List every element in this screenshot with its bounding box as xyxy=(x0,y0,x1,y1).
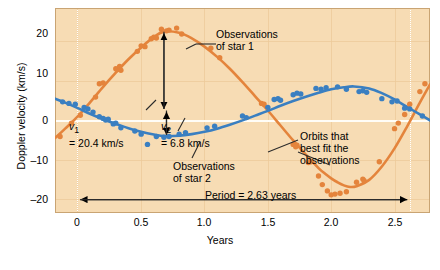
annotation-period: Period = 2.63 years xyxy=(205,189,296,201)
xtick-1_5: 1.5 xyxy=(248,216,288,228)
annotation-observations-star-1: Observations of star 1 xyxy=(216,28,278,52)
v2-subscript: 2 xyxy=(166,125,171,135)
v1-value: = 20.4 km/s xyxy=(69,137,124,149)
annotation-orbits-best-fit: Orbits that best fit the observations xyxy=(300,130,360,167)
xtick-2_5: 2.5 xyxy=(375,216,415,228)
v2-value: = 6.8 km/s xyxy=(161,137,210,149)
xtick-0_5: 0.5 xyxy=(121,216,161,228)
v1-subscript: 1 xyxy=(74,125,79,135)
x-axis-title: Years xyxy=(0,234,440,246)
gridline-horizontal xyxy=(55,81,430,82)
annotation-observations-star-2: Observations of star 2 xyxy=(173,160,235,184)
gridline-vertical xyxy=(395,8,396,213)
y-axis-title: Doppler velocity (km/s) xyxy=(15,26,27,206)
xtick-0: 0 xyxy=(57,216,97,228)
radial-velocity-chart: 20 10 0 –10 –20 0 0.5 1.0 1.5 2.0 2.5 Ye… xyxy=(0,0,440,270)
annotation-v1: v1 = 20.4 km/s xyxy=(69,108,124,149)
gridline-vertical xyxy=(141,8,142,213)
gridline-vertical xyxy=(331,8,332,213)
period-marker-end xyxy=(410,8,411,213)
xtick-2_0: 2.0 xyxy=(311,216,351,228)
annotation-v2: v2 = 6.8 km/s xyxy=(161,108,210,149)
gridline-horizontal xyxy=(55,160,430,161)
xtick-1_0: 1.0 xyxy=(184,216,224,228)
